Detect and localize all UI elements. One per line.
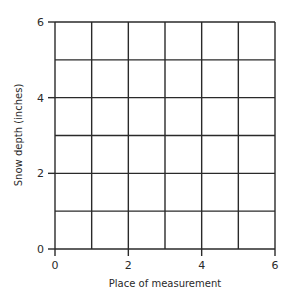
y-tick-label: 4 — [37, 92, 44, 105]
y-tick-label: 6 — [37, 16, 44, 29]
grid — [55, 22, 275, 249]
chart: 0246 0246 Place of measurement Snow dept… — [0, 0, 290, 300]
x-tick-label: 2 — [125, 259, 132, 272]
axis-ticks — [48, 22, 275, 256]
x-axis-tick-labels: 0246 — [52, 259, 279, 272]
y-tick-label: 2 — [37, 167, 44, 180]
y-axis-title: Snow depth (inches) — [13, 84, 24, 187]
x-tick-label: 0 — [52, 259, 59, 272]
y-tick-label: 0 — [37, 243, 44, 256]
x-tick-label: 4 — [198, 259, 205, 272]
x-tick-label: 6 — [272, 259, 279, 272]
y-axis-tick-labels: 0246 — [37, 16, 44, 256]
x-axis-title: Place of measurement — [109, 278, 221, 289]
chart-canvas: 0246 0246 Place of measurement Snow dept… — [0, 0, 290, 300]
